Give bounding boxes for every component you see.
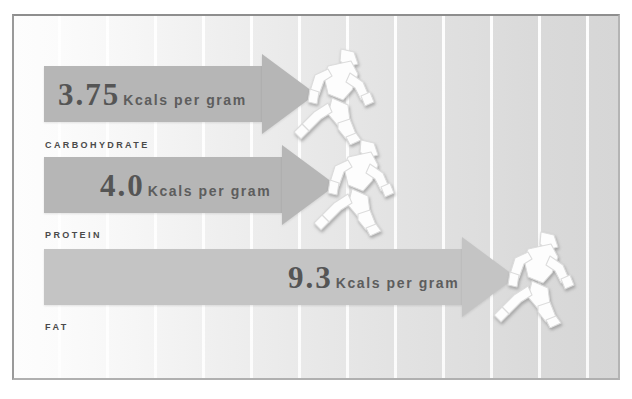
- bar-value: 3.75: [58, 79, 120, 110]
- infographic-page: 3.75 Kcals per gram: [0, 0, 632, 399]
- category-label-carbohydrate: CARBOHYDRATE: [45, 140, 150, 150]
- bar-value: 4.0: [100, 170, 145, 201]
- chart-frame: 3.75 Kcals per gram: [12, 14, 620, 380]
- runner-icon: [492, 228, 578, 328]
- bar-value-group-fat: 9.3 Kcals per gram: [288, 262, 459, 293]
- bar-row-fat[interactable]: 9.3 Kcals per gram: [14, 249, 618, 305]
- bar-value: 9.3: [288, 262, 333, 293]
- runner-icon: [292, 45, 378, 145]
- bar-row-carbohydrate[interactable]: 3.75 Kcals per gram: [14, 66, 618, 122]
- bar-unit: Kcals per gram: [148, 184, 272, 198]
- bar-unit: Kcals per gram: [336, 276, 460, 290]
- runner-icon: [312, 136, 398, 236]
- bar-value-group-protein: 4.0 Kcals per gram: [100, 170, 271, 201]
- bar-value-group-carbohydrate: 3.75 Kcals per gram: [58, 79, 247, 110]
- bar-unit: Kcals per gram: [123, 93, 247, 107]
- category-label-fat: FAT: [45, 322, 69, 332]
- bar-row-protein[interactable]: 4.0 Kcals per gram: [14, 157, 618, 213]
- category-label-protein: PROTEIN: [45, 230, 102, 240]
